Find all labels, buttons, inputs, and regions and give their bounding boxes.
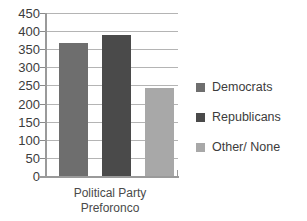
legend-swatch-other-none-icon: [196, 143, 205, 152]
x-axis-title-line-2: Preforonco: [40, 201, 180, 216]
y-tick-label: 300: [6, 61, 40, 74]
chart-legend: Democrats Republicans Other/ None: [196, 76, 307, 166]
legend-item-democrats: Democrats: [196, 76, 307, 98]
bar-democrats: [59, 43, 88, 176]
legend-item-other-none: Other/ None: [196, 136, 307, 158]
x-axis-endcap: [177, 170, 178, 178]
x-axis-title: Political Party Preforonco: [40, 186, 180, 216]
y-tick-label: 100: [6, 134, 40, 147]
y-tick-label: 0: [6, 170, 40, 183]
bar-other-none: [145, 88, 174, 176]
y-tick-label: 200: [6, 98, 40, 111]
bar-republicans: [102, 35, 131, 176]
grid-line: [45, 31, 178, 32]
legend-item-republicans: Republicans: [196, 106, 307, 128]
x-axis-title-line-1: Political Party: [40, 186, 180, 201]
bar-chart: 450 400 350 300 250 200 150 100 50 0 Pol…: [0, 0, 307, 221]
legend-label-republicans: Republicans: [212, 110, 281, 124]
legend-label-other-none: Other/ None: [212, 140, 280, 154]
y-axis-line: [45, 13, 47, 177]
x-axis-line: [39, 176, 179, 178]
y-tick-label: 450: [6, 7, 40, 20]
y-tick-label: 250: [6, 79, 40, 92]
y-tick-label: 150: [6, 116, 40, 129]
plot-area: [45, 13, 178, 176]
legend-swatch-republicans-icon: [196, 113, 205, 122]
legend-label-democrats: Democrats: [212, 80, 272, 94]
y-tick-label: 50: [6, 152, 40, 165]
legend-swatch-democrats-icon: [196, 83, 205, 92]
grid-line: [45, 13, 178, 14]
y-tick-label: 350: [6, 43, 40, 56]
y-tick-label: 400: [6, 25, 40, 38]
y-axis-labels: 450 400 350 300 250 200 150 100 50 0: [0, 13, 40, 177]
